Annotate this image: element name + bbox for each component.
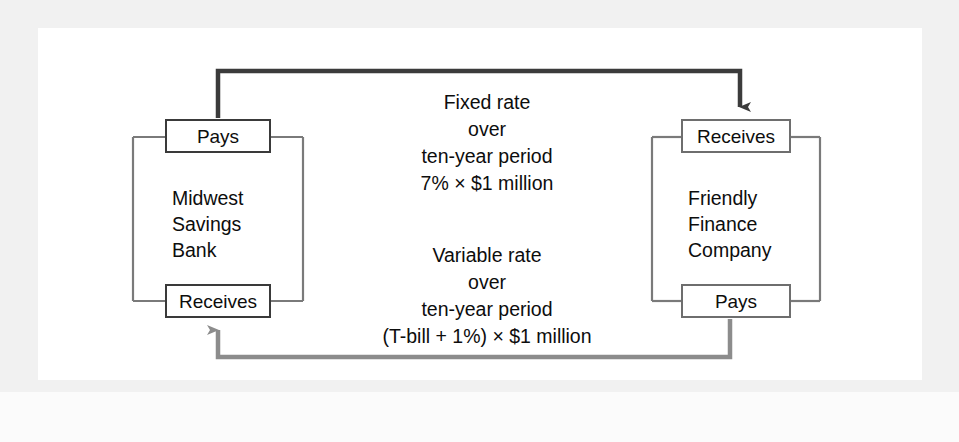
- fixed-rate-line-2: over: [468, 118, 506, 140]
- fixed-rate-line-3: ten-year period: [421, 145, 552, 167]
- variable-rate-line-3: ten-year period: [421, 298, 552, 320]
- left-party-name: Midwest Savings Bank: [172, 187, 244, 261]
- right-party-name: Friendly Finance Company: [688, 187, 772, 261]
- fixed-rate-terms: Fixed rate over ten-year period 7% × $1 …: [421, 91, 554, 194]
- left-party-top-label-box: Pays: [166, 120, 270, 152]
- right-party-top-label-box: Receives: [682, 120, 790, 152]
- right-party-name-line-2: Finance: [688, 213, 757, 235]
- left-party-bottom-label-box: Receives: [166, 285, 270, 317]
- fixed-rate-line-4: 7% × $1 million: [421, 172, 554, 194]
- right-party-name-line-1: Friendly: [688, 187, 758, 209]
- swap-diagram: Pays Receives Midwest Savings Bank Recei…: [0, 0, 959, 442]
- left-party-name-line-1: Midwest: [172, 187, 244, 209]
- left-party-top-label: Pays: [197, 126, 239, 147]
- left-party-bottom-label: Receives: [179, 291, 257, 312]
- diagram-canvas: Pays Receives Midwest Savings Bank Recei…: [0, 0, 959, 442]
- variable-rate-terms: Variable rate over ten-year period (T-bi…: [382, 244, 591, 347]
- right-party-bottom-label-box: Pays: [682, 285, 790, 317]
- variable-rate-line-1: Variable rate: [432, 244, 541, 266]
- variable-rate-line-4: (T-bill + 1%) × $1 million: [382, 325, 591, 347]
- right-party-bottom-label: Pays: [715, 291, 757, 312]
- left-party-name-line-2: Savings: [172, 213, 242, 235]
- right-party-name-line-3: Company: [688, 239, 772, 261]
- fixed-rate-line-1: Fixed rate: [444, 91, 531, 113]
- right-party-top-label: Receives: [697, 126, 775, 147]
- left-party-name-line-3: Bank: [172, 239, 217, 261]
- variable-rate-line-2: over: [468, 271, 506, 293]
